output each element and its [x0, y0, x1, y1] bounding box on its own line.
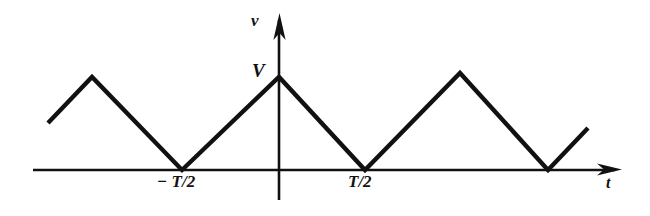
x-tick-label-positive-half-period: T/2	[348, 173, 372, 190]
x-axis-label: t	[606, 175, 610, 191]
x-tick-label-negative-half-period: − T/2	[157, 173, 195, 190]
amplitude-label: V	[252, 61, 265, 80]
waveform-plot-svg	[0, 0, 650, 216]
triangular-waveform-trace	[48, 73, 588, 170]
y-axis-label: v	[251, 12, 259, 29]
waveform-figure: v V − T/2 T/2 t	[0, 0, 650, 216]
